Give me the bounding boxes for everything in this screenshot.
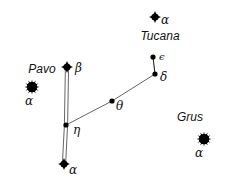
star-label-pav-beta: β bbox=[74, 61, 82, 75]
star-label-pav-alpha: α bbox=[25, 94, 33, 108]
star-label-tuc-delta: δ bbox=[160, 70, 167, 84]
star-label-gru-alpha: α bbox=[195, 146, 203, 160]
labels: αϵδθβαηααPavoTucanaGrus bbox=[25, 13, 203, 177]
constellation-label-pavo: Pavo bbox=[28, 62, 56, 76]
constellation-label-grus: Grus bbox=[177, 110, 203, 124]
star-gru-alpha-icon bbox=[196, 131, 211, 146]
star-label-tuc-alpha: α bbox=[161, 13, 169, 27]
constellation-line bbox=[66, 101, 112, 125]
star-pav-eta-icon bbox=[63, 122, 68, 127]
stars bbox=[24, 11, 211, 170]
star-label-pav-eta: η bbox=[73, 123, 81, 137]
star-label-pav-theta: θ bbox=[116, 99, 124, 113]
constellation-line bbox=[112, 74, 155, 101]
star-pav-beta-icon bbox=[61, 61, 73, 73]
star-label-tuc-alpha-lower: α bbox=[69, 163, 77, 177]
star-tuc-delta-icon bbox=[152, 71, 157, 76]
star-tuc-alpha-icon bbox=[149, 11, 161, 23]
star-tuc-epsilon-icon bbox=[150, 54, 155, 59]
star-pav-theta-icon bbox=[109, 98, 114, 103]
star-label-tuc-epsilon: ϵ bbox=[159, 51, 165, 62]
constellation-label-tucana: Tucana bbox=[140, 29, 179, 43]
star-pav-alpha-icon bbox=[24, 79, 39, 94]
constellation-line-double bbox=[62, 125, 67, 164]
star-chart: αϵδθβαηααPavoTucanaGrus bbox=[0, 0, 226, 186]
constellation-line-double bbox=[64, 67, 68, 125]
